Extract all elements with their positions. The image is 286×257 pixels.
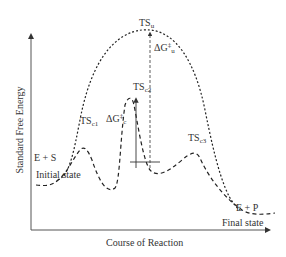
ts-c2-label: TSc2 [133, 82, 151, 94]
x-axis-label: Course of Reaction [106, 238, 183, 248]
ts-c3-sub: c3 [200, 137, 207, 145]
dg-c-sub: c [123, 118, 126, 126]
dg-u-text: ΔG [154, 42, 168, 53]
initial-species-label: E + S [34, 153, 56, 163]
ts-c1-sub: c1 [92, 120, 99, 128]
dg-c-label: ΔG‡c [106, 113, 126, 126]
initial-state-label: Initial state [36, 170, 81, 180]
ts-c2-sub: c2 [145, 86, 152, 94]
final-state-label: Final state [222, 218, 263, 228]
ts-c2-text: TS [133, 81, 145, 92]
ts-c3-text: TS [188, 132, 200, 143]
ts-u-label: TSu [139, 18, 154, 30]
ts-c3-label: TSc3 [188, 133, 206, 145]
y-axis-label: Standard Free Energy [15, 70, 25, 190]
ts-c1-label: TSc1 [80, 116, 98, 128]
dg-u-sub: u [171, 47, 175, 55]
ts-u-sub: u [151, 22, 155, 30]
dg-c-text: ΔG [106, 113, 120, 124]
dg-u-label: ΔG‡u [154, 42, 175, 55]
final-species-label: E + P [236, 203, 258, 213]
ts-u-text: TS [139, 17, 151, 28]
ts-c1-text: TS [80, 115, 92, 126]
